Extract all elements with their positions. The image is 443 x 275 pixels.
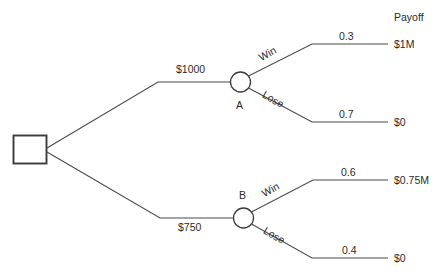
branch-b-lose-probability: 0.4 <box>342 245 357 256</box>
tree-graphics <box>0 0 443 275</box>
branch-b-win-payoff: $0.75M <box>394 175 429 186</box>
edge-root-to-node-b <box>47 152 233 218</box>
decision-node-square[interactable] <box>14 136 47 164</box>
chance-node-a-label: A <box>236 100 243 111</box>
chance-node-b[interactable] <box>234 208 254 228</box>
branch-b-lose-payoff: $0 <box>394 253 406 264</box>
branch-a-win-payoff: $1M <box>394 39 414 50</box>
branch-b-cost-label: $750 <box>178 222 201 233</box>
payoff-column-header: Payoff <box>394 12 424 23</box>
branch-a-lose-payoff: $0 <box>394 117 406 128</box>
chance-node-b-label: B <box>239 190 246 201</box>
branch-b-win-probability: 0.6 <box>341 167 356 178</box>
branch-a-lose-probability: 0.7 <box>339 109 354 120</box>
decision-tree-diagram: Payoff $1000 A Win 0.3 $1M Lose 0.7 $0 $… <box>0 0 443 275</box>
edge-root-to-node-a <box>47 82 230 148</box>
chance-node-a[interactable] <box>231 72 251 92</box>
branch-a-win-probability: 0.3 <box>339 31 354 42</box>
branch-a-cost-label: $1000 <box>176 64 205 75</box>
